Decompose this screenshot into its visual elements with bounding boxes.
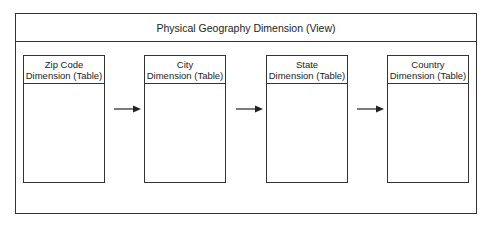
table-header: City Dimension (Table): [145, 56, 225, 84]
view-title: Physical Geography Dimension (View): [16, 14, 476, 42]
table-zip-code: Zip Code Dimension (Table): [23, 55, 105, 183]
table-name: Zip Code: [45, 59, 84, 70]
table-header: State Dimension (Table): [267, 56, 347, 84]
table-type: Dimension (Table): [390, 70, 467, 81]
table-name: State: [296, 59, 318, 70]
table-type: Dimension (Table): [147, 70, 224, 81]
table-city: City Dimension (Table): [144, 55, 226, 183]
table-type: Dimension (Table): [26, 70, 103, 81]
table-state: State Dimension (Table): [266, 55, 348, 183]
table-type: Dimension (Table): [269, 70, 346, 81]
arrow-right-icon: [357, 104, 385, 114]
table-name: Country: [411, 59, 444, 70]
table-header: Country Dimension (Table): [388, 56, 468, 84]
arrow-right-icon: [236, 104, 264, 114]
table-name: City: [177, 59, 193, 70]
table-country: Country Dimension (Table): [387, 55, 469, 183]
arrow-right-icon: [114, 104, 142, 114]
table-header: Zip Code Dimension (Table): [24, 56, 104, 84]
